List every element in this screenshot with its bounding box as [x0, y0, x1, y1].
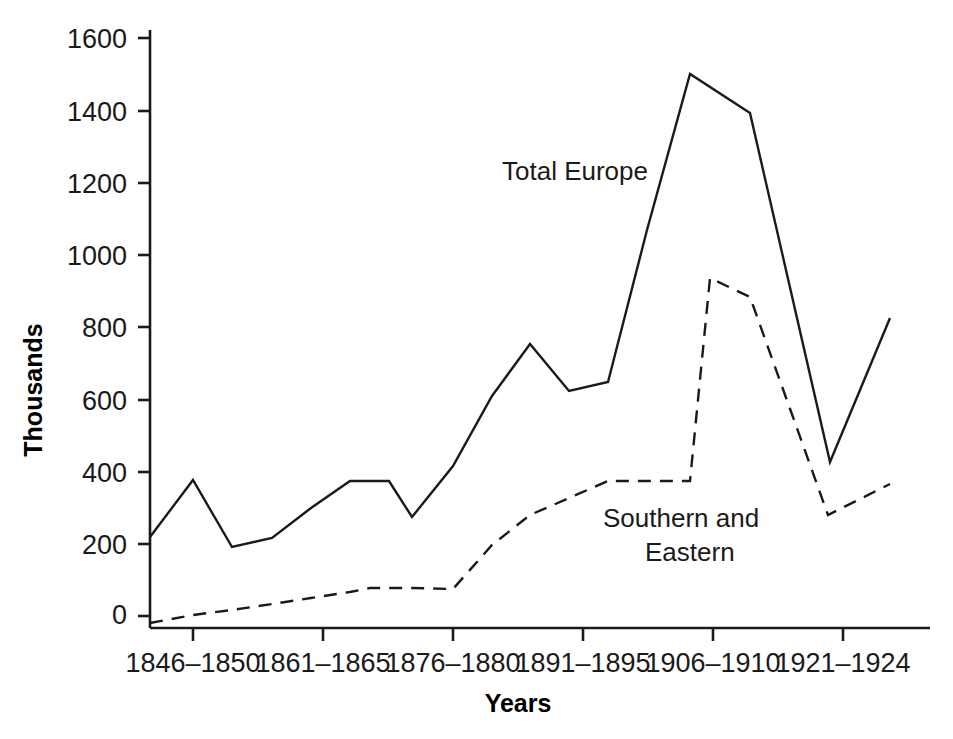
y-tick-label-800: 800 — [82, 313, 127, 343]
y-tick-label-600: 600 — [82, 386, 127, 416]
y-axis-title: Thousands — [19, 323, 47, 456]
annotation-southern-eastern-line1: Southern and — [603, 503, 759, 533]
line-chart: Thousands 1600 1400 1200 1000 800 600 40… — [0, 0, 953, 739]
x-tick-label-2: 1861–1865 — [255, 648, 390, 678]
series-total-europe-line — [150, 74, 890, 547]
y-tick-label-0: 0 — [112, 600, 127, 630]
y-tick-label-1000: 1000 — [67, 241, 127, 271]
x-tick-label-3: 1876–1880 — [385, 648, 520, 678]
x-tick-label-4: 1891–1895 — [515, 648, 650, 678]
y-tick-label-1600: 1600 — [67, 24, 127, 54]
annotation-total-europe: Total Europe — [502, 156, 648, 186]
y-tick-label-1200: 1200 — [67, 169, 127, 199]
y-tick-label-200: 200 — [82, 530, 127, 560]
series-southern-eastern-line — [150, 278, 890, 623]
y-tick-label-1400: 1400 — [67, 97, 127, 127]
x-tick-label-1: 1846–1850 — [125, 648, 260, 678]
x-axis-title: Years — [485, 689, 552, 717]
x-tick-label-5: 1906–1910 — [645, 648, 780, 678]
x-tick-label-6: 1921–1924 — [775, 648, 910, 678]
annotation-southern-eastern-line2: Eastern — [645, 537, 735, 567]
y-tick-label-400: 400 — [82, 458, 127, 488]
chart-container: Thousands 1600 1400 1200 1000 800 600 40… — [0, 0, 953, 739]
